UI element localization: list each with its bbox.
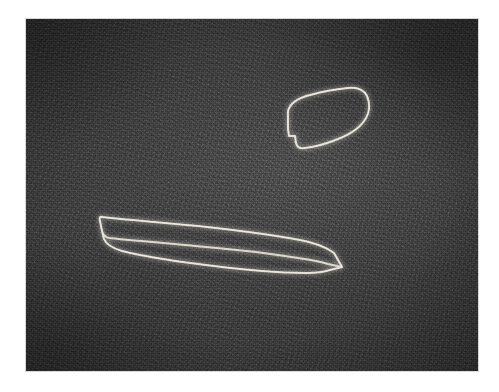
image-plate: [26, 19, 478, 371]
background-luminance-field: [26, 19, 478, 371]
figure-caption: [0, 0, 1, 1]
figure-root: [0, 0, 499, 392]
